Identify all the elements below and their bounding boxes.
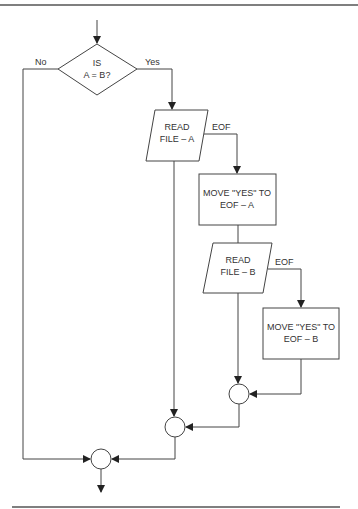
no-label: No [35, 57, 47, 67]
move-b-text-1: MOVE "YES" TO [267, 322, 335, 332]
move-b-to-junction [250, 359, 301, 394]
move-a-text-2: EOF – A [220, 200, 254, 210]
junction-a-to-final [112, 437, 175, 459]
no-branch-line [23, 69, 90, 459]
read-a-text-2: FILE – A [160, 134, 195, 144]
junction-final [91, 449, 111, 469]
junction-a [165, 417, 185, 437]
decision-diamond: IS A = B? [58, 44, 137, 95]
move-b-text-2: EOF – B [284, 334, 319, 344]
junction-b-to-a [186, 404, 239, 427]
decision-text-2: A = B? [84, 70, 111, 80]
read-b-text-2: FILE – B [220, 267, 255, 277]
read-b-text-1: READ [225, 255, 251, 265]
move-a-text-1: MOVE "YES" TO [203, 188, 271, 198]
eof-b-label: EOF [275, 257, 294, 267]
eof-a-label: EOF [212, 122, 231, 132]
decision-text-1: IS [93, 58, 102, 68]
yes-branch-line [137, 69, 172, 109]
move-eof-a-box: MOVE "YES" TO EOF – A [199, 174, 276, 225]
junction-b [229, 384, 249, 404]
read-file-b-box: READ FILE – B [203, 243, 272, 293]
flowchart: IS A = B? No Yes READ FILE – A EOF MOVE … [0, 0, 358, 509]
read-a-text-1: READ [164, 122, 190, 132]
eof-a-line [204, 134, 237, 173]
yes-label: Yes [145, 57, 160, 67]
eof-b-line [268, 269, 301, 307]
read-file-a-box: READ FILE – A [146, 110, 208, 161]
move-eof-b-box: MOVE "YES" TO EOF – B [263, 308, 339, 359]
